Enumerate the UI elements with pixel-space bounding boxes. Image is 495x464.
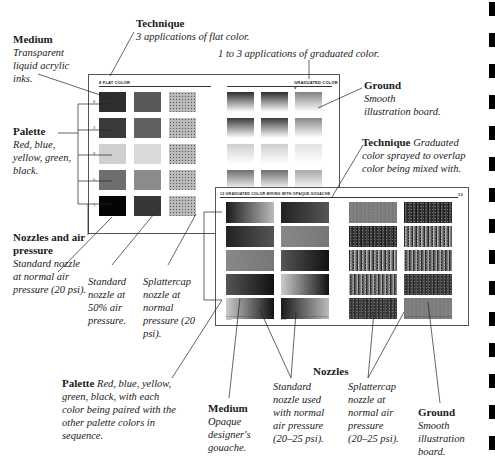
label-technique-right: Technique Graduated color sprayed to ove…: [362, 136, 482, 175]
label-title: Technique: [136, 17, 185, 29]
gouache-swatch: [226, 226, 274, 247]
graduated-color-rule: [227, 86, 332, 87]
page-tab-marker: [489, 33, 495, 47]
swatch-note: Mixes: Graduated colors sprayed over fla…: [281, 315, 331, 321]
graduated-swatch: [295, 144, 322, 164]
gouache-swatch: [404, 250, 452, 271]
flat-swatch: [99, 196, 126, 216]
label-splattercap-normal: Splattercap nozzle at normal pressure (2…: [143, 275, 195, 340]
label-splattercap-used: Splattercap nozzle at normal air pressur…: [348, 380, 403, 445]
label-title: Medium: [208, 402, 248, 414]
page-number: 13: [458, 192, 463, 197]
page-tab-marker: [489, 219, 495, 233]
flat-swatch: [99, 92, 126, 112]
page-tab-marker: [489, 64, 495, 78]
row-number: 3: [93, 152, 95, 155]
row-number: 8: [93, 100, 95, 103]
swatch-note: Mixes: Graduated colors sprayed over fla…: [226, 315, 276, 321]
swatch-note: Mixes: Splattercap nozzle graduated colo…: [404, 315, 454, 318]
gouache-swatch: [281, 226, 329, 247]
graduated-swatch: [227, 92, 254, 112]
page-tab-marker: [489, 405, 495, 419]
flat-swatch: [169, 144, 196, 164]
page-tab-marker: [489, 374, 495, 388]
flat-swatch: [134, 170, 161, 190]
label-text: Opaque designer's gouache.: [208, 416, 251, 453]
label-ground-bottom: Ground Smooth illustration board.: [418, 406, 478, 458]
flat-swatch: [134, 196, 161, 216]
flat-swatch: [99, 170, 126, 190]
gouache-swatch: [404, 274, 452, 295]
label-technique-top: Technique 3 applications of flat color.: [136, 17, 326, 43]
label-standard-used: Standard nozzle used with normal air pre…: [273, 380, 328, 445]
graduated-swatch: [227, 118, 254, 138]
label-title: Ground: [418, 406, 455, 418]
flat-swatch: [169, 92, 196, 112]
flat-swatch: [99, 118, 126, 138]
row-number: 3: [93, 126, 95, 129]
label-title: Medium: [13, 33, 53, 45]
gouache-header: 12 GRADUATED COLOR MIXING WITH OPAQUE GO…: [220, 192, 330, 196]
gouache-swatch: [281, 202, 329, 223]
label-palette-bottom: Palette Red, blue, yellow, green, black,…: [62, 377, 184, 442]
graduated-swatch: [261, 92, 288, 112]
gouache-swatch: [281, 274, 329, 295]
flat-swatch: [169, 196, 196, 216]
label-title: Ground: [364, 79, 401, 91]
label-text: Red, blue, yellow, green, black.: [13, 139, 71, 176]
label-palette-left: Palette Red, blue, yellow, green, black.: [13, 125, 73, 177]
page-tab-marker: [489, 126, 495, 140]
label-title: Palette: [13, 125, 45, 137]
label-medium-bottom: Medium Opaque designer's gouache.: [208, 402, 268, 454]
flat-color-header: 8 FLAT COLOR: [99, 80, 130, 85]
flat-swatch: [169, 170, 196, 190]
gouache-mixing-sheet: 12 GRADUATED COLOR MIXING WITH OPAQUE GO…: [215, 187, 469, 326]
page-tab-marker: [489, 95, 495, 109]
flat-swatch: [134, 118, 161, 138]
label-text: Smooth illustration board.: [418, 420, 465, 457]
label-text: Transparent liquid acrylic inks.: [13, 47, 69, 84]
label-title: Palette: [62, 377, 94, 389]
label-title: Nozzles and air pressure: [13, 231, 85, 256]
gouache-swatch: [226, 250, 274, 271]
graduated-swatch: [227, 144, 254, 164]
label-text: Standard nozzle at normal air pressure (…: [13, 258, 86, 295]
row-number: 7: [93, 204, 95, 207]
graduated-swatch: [261, 118, 288, 138]
page-tab-marker: [489, 188, 495, 202]
page-tab-marker: [489, 436, 495, 450]
page-tab-marker: [489, 157, 495, 171]
label-text: Smooth illustration board.: [364, 93, 441, 117]
gouache-swatch: [404, 202, 452, 223]
swatch-note: Mixes: Splattercap nozzle graduated colo…: [349, 315, 399, 318]
gouache-swatch: [226, 274, 274, 295]
flat-color-rule: [99, 86, 211, 87]
flat-swatch: [134, 92, 161, 112]
flat-swatch: [169, 118, 196, 138]
gouache-swatch: [349, 202, 397, 223]
gouache-swatch: [226, 202, 274, 223]
gouache-swatch: [281, 250, 329, 271]
label-standard-50: Standard nozzle at 50% air pressure.: [88, 275, 136, 327]
gouache-swatch: [349, 250, 397, 271]
nozzles-heading: Nozzles: [313, 365, 348, 378]
label-medium-top: Medium Transparent liquid acrylic inks.: [13, 33, 85, 85]
graduated-swatch: [295, 118, 322, 138]
flat-swatch: [134, 144, 161, 164]
gouache-swatch: [349, 226, 397, 247]
label-ground-top: Ground Smooth illustration board.: [364, 79, 444, 118]
page-tab-marker: [489, 250, 495, 264]
flat-swatch: [99, 144, 126, 164]
page-tab-marker: [489, 312, 495, 326]
row-number: 5: [93, 178, 95, 181]
graduated-swatch: [295, 92, 322, 112]
gouache-rule: [220, 197, 458, 198]
page-tab-marker: [489, 2, 495, 16]
top-caption: 1 to 3 applications of graduated color.: [218, 47, 458, 60]
label-title: Technique: [362, 136, 411, 148]
page-tab-marker: [489, 343, 495, 357]
gouache-swatch: [349, 274, 397, 295]
graduated-swatch: [261, 144, 288, 164]
label-text: 3 applications of flat color.: [136, 31, 249, 42]
label-nozzles-air: Nozzles and air pressure Standard nozzle…: [13, 231, 88, 296]
